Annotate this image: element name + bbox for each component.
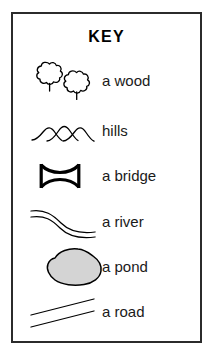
legend-label-bridge: a bridge bbox=[102, 153, 156, 199]
legend-row-hills: hills bbox=[13, 108, 200, 154]
three-arcs-hills-icon bbox=[23, 108, 113, 154]
legend-label-road: a road bbox=[102, 289, 145, 335]
filled-blob-pond-icon bbox=[23, 244, 113, 290]
legend-label-wood: a wood bbox=[102, 58, 150, 104]
legend-row-wood: a wood bbox=[13, 58, 200, 104]
legend-row-road: a road bbox=[13, 289, 200, 335]
map-key-panel: KEY a wood hil bbox=[11, 12, 202, 343]
legend-label-hills: hills bbox=[102, 108, 128, 154]
double-wavy-line-river-icon bbox=[23, 199, 113, 245]
legend-label-river: a river bbox=[102, 199, 144, 245]
legend-row-bridge: a bridge bbox=[13, 153, 200, 199]
page-title: KEY bbox=[13, 28, 200, 46]
two-trees-icon bbox=[23, 58, 113, 104]
legend-row-river: a river bbox=[13, 199, 200, 245]
double-diagonal-line-road-icon bbox=[23, 289, 113, 335]
legend-label-pond: a pond bbox=[102, 244, 148, 290]
legend-row-pond: a pond bbox=[13, 244, 200, 290]
bridge-icon bbox=[23, 153, 113, 199]
